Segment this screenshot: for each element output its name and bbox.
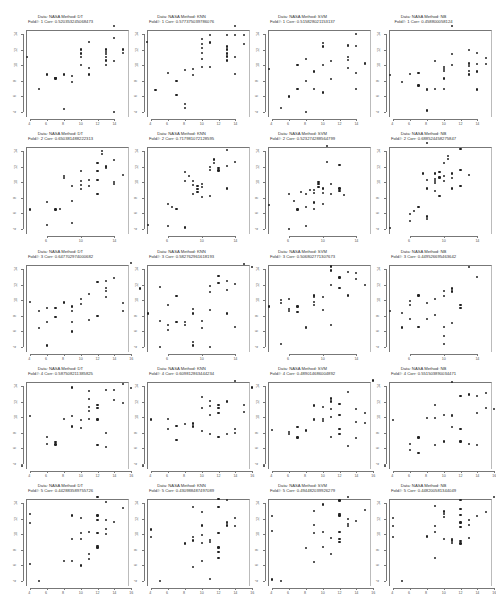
x-tick-label: 14 <box>112 357 116 361</box>
y-tick <box>21 503 23 504</box>
scatter-panel: Data: NASA Method: DTFold#: 2 Corr: 0.65… <box>0 131 121 248</box>
data-point <box>330 269 332 271</box>
x-tick-label: 10 <box>442 474 446 478</box>
y-tick-label: 8 <box>255 549 259 551</box>
x-tick <box>235 354 236 356</box>
data-point <box>417 326 419 328</box>
y-tick-label: 8 <box>255 315 259 317</box>
data-point <box>417 436 419 438</box>
data-point <box>96 315 98 317</box>
plot-area <box>389 499 492 586</box>
y-tick <box>142 565 144 566</box>
y-axis <box>23 269 24 347</box>
y-tick <box>142 65 144 66</box>
x-tick <box>81 119 82 121</box>
x-tick <box>477 354 478 356</box>
data-point <box>330 397 332 399</box>
data-point <box>459 307 461 309</box>
plot-area <box>147 265 250 352</box>
y-tick-label: 14 <box>14 149 18 153</box>
x-tick <box>219 588 220 590</box>
y-tick <box>263 550 265 551</box>
plot-area <box>26 499 129 586</box>
x-tick <box>410 471 411 473</box>
data-point <box>443 68 445 70</box>
x-tick-label: 10 <box>200 357 204 361</box>
y-tick <box>384 198 386 199</box>
y-axis <box>386 386 387 464</box>
x-tick <box>168 354 169 356</box>
x-tick <box>393 471 394 473</box>
data-point <box>426 142 428 144</box>
x-tick <box>98 588 99 590</box>
data-point <box>88 73 90 75</box>
panel-subtitle-line: Fold#: 1 Corr: 0.520353245068473 <box>0 19 121 24</box>
y-tick <box>384 285 386 286</box>
x-tick <box>444 236 445 238</box>
data-point <box>417 294 419 296</box>
data-point <box>201 58 203 60</box>
data-point <box>184 226 186 228</box>
data-point <box>201 560 203 562</box>
y-tick-label: 6 <box>376 95 380 97</box>
panel-title: Data: NASA Method: NBFold#: 3 Corr: 0.44… <box>363 249 484 259</box>
data-point <box>96 281 98 283</box>
data-point <box>443 77 445 79</box>
y-tick <box>21 50 23 51</box>
x-tick <box>356 471 357 473</box>
y-axis <box>386 503 387 581</box>
x-tick-label: 4 <box>149 122 151 126</box>
y-tick <box>384 534 386 535</box>
y-tick <box>384 433 386 434</box>
x-tick-label: 6 <box>408 239 410 243</box>
y-axis <box>23 386 24 464</box>
x-tick <box>340 471 341 473</box>
y-tick-label: 4 <box>134 228 138 230</box>
x-tick-label: 10 <box>200 239 204 243</box>
y-tick-label: 4 <box>255 580 259 582</box>
y-tick <box>263 112 265 113</box>
y-tick-label: 10 <box>14 180 18 184</box>
y-axis <box>386 269 387 347</box>
scatter-panel: Data: NASA Method: NBFold#: 2 Corr: 0.68… <box>363 131 484 248</box>
data-point <box>38 310 40 312</box>
panel-title: Data: NASA Method: DTFold#: 5 Corr: 0.44… <box>0 483 121 493</box>
x-tick-label: 10 <box>79 122 83 126</box>
data-point <box>96 404 98 406</box>
data-point <box>409 73 411 75</box>
y-axis <box>265 386 266 464</box>
x-tick <box>151 471 152 473</box>
data-point <box>105 528 107 530</box>
scatter-panel: Data: NASA Method: DTFold#: 3 Corr: 0.64… <box>0 249 121 366</box>
scatter-panel: Data: NASA Method: NBFold#: 1 Corr: 0.45… <box>363 14 484 131</box>
y-tick <box>384 229 386 230</box>
data-point <box>347 59 349 61</box>
x-tick-label: 14 <box>233 357 237 361</box>
data-point <box>459 304 461 306</box>
x-tick <box>306 588 307 590</box>
x-tick <box>393 119 394 121</box>
data-point <box>347 496 349 498</box>
y-tick <box>142 417 144 418</box>
y-tick-label: 14 <box>256 149 260 153</box>
y-tick-label: 14 <box>377 501 381 505</box>
y-tick-label: 6 <box>134 564 138 566</box>
y-tick-label: 4 <box>13 228 17 230</box>
x-tick-label: 12 <box>459 591 463 595</box>
data-point <box>159 346 161 348</box>
data-point <box>459 395 461 397</box>
panel-title: Data: NASA Method: KNNFold#: 5 Corr: 0.4… <box>121 483 242 493</box>
x-tick-label: 12 <box>217 474 221 478</box>
panel-subtitle-line: Fold#: 1 Corr: 0.515828021153137 <box>242 19 363 24</box>
y-tick-label: 12 <box>256 400 260 404</box>
y-tick-label: 10 <box>256 298 260 302</box>
y-tick-label: 4 <box>376 228 380 230</box>
x-tick <box>81 236 82 238</box>
data-point <box>459 440 461 442</box>
y-tick-label: 14 <box>135 384 139 388</box>
x-tick <box>272 471 273 473</box>
data-point <box>201 524 203 526</box>
panel-title: Data: NASA Method: DTFold#: 1 Corr: 0.52… <box>0 14 121 24</box>
data-point <box>338 538 340 540</box>
y-tick <box>21 448 23 449</box>
